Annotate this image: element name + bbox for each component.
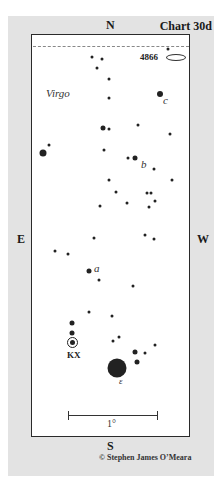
star-icon: [127, 157, 130, 160]
constellation-label: Virgo: [46, 87, 70, 99]
star-icon: [101, 126, 106, 131]
star-icon: [154, 344, 157, 347]
star-icon: [108, 359, 127, 378]
star-icon: [96, 67, 99, 70]
star-icon: [153, 168, 156, 171]
star-icon: [103, 149, 106, 152]
star-icon: [150, 192, 153, 195]
star-icon: [93, 237, 96, 240]
star-icon: [70, 331, 75, 336]
star-icon: [137, 124, 140, 127]
star-icon: [148, 206, 151, 209]
star-icon: [91, 56, 94, 59]
star-icon: [133, 350, 138, 355]
star-icon: [146, 192, 149, 195]
star-icon: [171, 179, 174, 182]
star-icon: [108, 97, 111, 100]
star-icon: [108, 78, 111, 81]
chart-boundary-line: [33, 46, 189, 47]
star-icon: [54, 250, 57, 253]
star-icon: [108, 179, 111, 182]
star-icon: [154, 200, 157, 203]
scale-label: 1°: [107, 418, 116, 429]
star-icon: [126, 202, 129, 205]
star-icon: [111, 315, 114, 318]
star-icon: [108, 128, 111, 131]
star-icon: [88, 311, 91, 314]
star-icon: [87, 269, 92, 274]
star-label-a: a: [94, 262, 100, 274]
east-label: E: [17, 233, 25, 245]
star-label-epsilon: ε: [119, 376, 123, 386]
star-icon: [132, 285, 135, 288]
south-label: S: [107, 440, 114, 452]
star-icon: [112, 340, 115, 343]
star-icon: [115, 191, 118, 194]
variable-star-kx-icon: [67, 337, 78, 348]
chart-title: Chart 30d: [160, 19, 212, 34]
star-icon: [99, 205, 102, 208]
star-label-b: b: [141, 158, 147, 170]
copyright: © Stephen James O’Meara: [99, 453, 191, 462]
star-icon: [48, 144, 51, 147]
star-icon: [144, 352, 147, 355]
star-icon: [167, 48, 170, 51]
star-icon: [101, 58, 104, 61]
galaxy-ellipse-icon: [166, 54, 186, 61]
star-icon: [153, 238, 156, 241]
star-icon: [70, 321, 75, 326]
north-label: N: [106, 19, 115, 31]
galaxy-label: 4866: [140, 52, 158, 62]
star-icon: [169, 133, 172, 136]
west-label: W: [197, 233, 209, 245]
star-icon: [98, 279, 101, 282]
star-icon: [144, 234, 147, 237]
variable-star-label: KX: [67, 350, 81, 360]
scale-bar: [68, 415, 158, 416]
star-label-c: c: [163, 94, 168, 106]
star-icon: [133, 156, 138, 161]
star-icon: [135, 360, 140, 365]
star-icon: [40, 150, 47, 157]
star-icon: [67, 253, 70, 256]
star-icon: [118, 336, 121, 339]
